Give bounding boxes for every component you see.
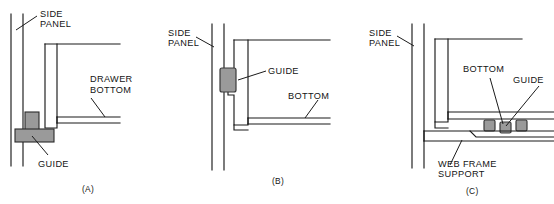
drawer-bottom-a bbox=[57, 117, 120, 123]
figure-root: SIDE PANEL DRAWER BOTTOM GUIDE (A) bbox=[0, 0, 554, 204]
leader-lines-c bbox=[397, 36, 539, 165]
web-frame-support-c bbox=[424, 131, 554, 141]
panel-c: SIDE PANEL BOTTOM GUIDE WEB FRAME SUPPOR… bbox=[369, 24, 554, 196]
guide-block-right-c bbox=[516, 120, 527, 131]
panel-b: SIDE PANEL GUIDE BOTTOM (B) bbox=[168, 24, 330, 186]
label-bottom-c: BOTTOM bbox=[463, 64, 504, 74]
label-guide-b: GUIDE bbox=[268, 66, 299, 76]
drawer-bottom-b bbox=[248, 118, 330, 124]
label-drawer-bottom-a-line1: DRAWER bbox=[90, 74, 133, 84]
label-side-panel-b-line2: PANEL bbox=[168, 38, 199, 48]
label-guide-a: GUIDE bbox=[38, 159, 69, 169]
side-panel-a bbox=[11, 14, 23, 166]
label-guide-c: GUIDE bbox=[513, 75, 544, 85]
guide-block-a bbox=[15, 112, 54, 142]
guide-block-b bbox=[220, 68, 236, 92]
label-drawer-bottom-a-line2: BOTTOM bbox=[90, 85, 131, 95]
label-side-panel-a-line1: SIDE bbox=[40, 9, 63, 19]
side-panel-b bbox=[212, 24, 224, 170]
drawer-side-notched-b bbox=[228, 40, 330, 130]
label-side-panel-a-line2: PANEL bbox=[40, 19, 71, 29]
label-web-frame-c-line2: SUPPORT bbox=[438, 169, 485, 179]
label-side-panel-b-line1: SIDE bbox=[168, 28, 191, 38]
label-side-panel-c-line1: SIDE bbox=[369, 28, 392, 38]
drawer-guide-diagram: SIDE PANEL DRAWER BOTTOM GUIDE (A) bbox=[0, 0, 554, 204]
guide-block-left-c bbox=[484, 120, 495, 131]
caption-panel-a: (A) bbox=[82, 184, 94, 194]
leader-lines-b bbox=[196, 37, 318, 118]
label-side-panel-c-line2: PANEL bbox=[369, 38, 400, 48]
label-web-frame-c-line1: WEB FRAME bbox=[438, 159, 497, 169]
caption-panel-b: (B) bbox=[272, 176, 284, 186]
caption-panel-c: (C) bbox=[466, 186, 479, 196]
label-bottom-b: BOTTOM bbox=[288, 91, 329, 101]
panel-a: SIDE PANEL DRAWER BOTTOM GUIDE (A) bbox=[11, 9, 133, 194]
